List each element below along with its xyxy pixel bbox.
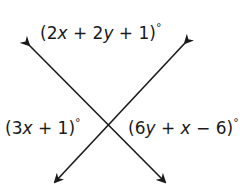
angle-label-left: (3x + 1)° [5,120,81,137]
angle-label-top: (2x + 2y + 1)° [40,25,161,42]
line-a [29,45,165,182]
line-b [55,43,185,182]
diagram-canvas: (2x + 2y + 1)° (3x + 1)° (6y + x − 6)° [0,0,249,184]
angle-label-right: (6y + x − 6)° [128,120,239,137]
